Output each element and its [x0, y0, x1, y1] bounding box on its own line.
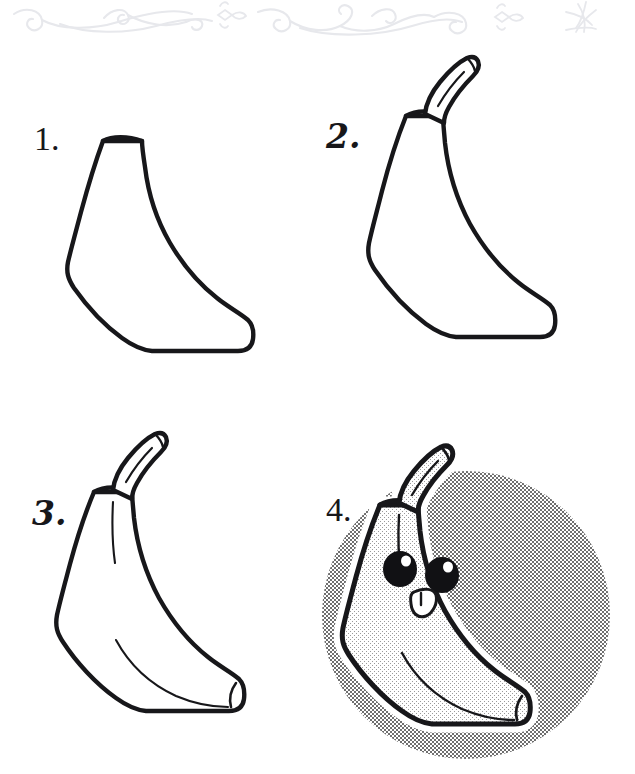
- step-4-panel: 4.: [318, 387, 635, 774]
- banana-stem: [425, 57, 479, 123]
- left-eye: [383, 551, 417, 587]
- step-1-banana-drawing: [0, 0, 318, 387]
- right-eye-highlight: [443, 562, 453, 573]
- step-2-panel: 2.: [318, 0, 635, 387]
- left-eye-highlight: [401, 556, 411, 567]
- step-1-number: 1.: [34, 122, 60, 156]
- banana-body-outline: [368, 116, 555, 337]
- step-3-number: 3.: [32, 497, 66, 530]
- step-2-number: 2.: [326, 120, 360, 153]
- step-1-panel: 1.: [0, 0, 318, 387]
- step-2-banana-drawing: [318, 0, 635, 387]
- banana-body-outline: [56, 492, 244, 711]
- step-4-banana-final-drawing: [318, 387, 635, 774]
- step-3-banana-drawing: [0, 387, 318, 774]
- banana-stem: [113, 433, 167, 499]
- step-4-number: 4.: [326, 493, 352, 527]
- right-eye: [425, 557, 459, 593]
- banana-body-outline: [67, 141, 253, 351]
- open-smiling-mouth: [411, 589, 437, 617]
- drawing-tutorial-sheet: 1. 2. 3.: [0, 0, 635, 774]
- step-3-panel: 3.: [0, 387, 318, 774]
